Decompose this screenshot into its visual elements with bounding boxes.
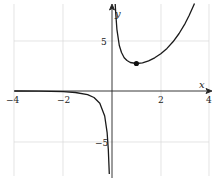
curve-right-branch — [115, 4, 194, 64]
plot-curves — [14, 4, 194, 175]
x-tick-label: −4 — [6, 95, 20, 105]
function-plot: x y −4 −2 2 4 5 −5 — [0, 0, 216, 180]
minimum-point-marker — [134, 61, 139, 66]
x-tick-label: 2 — [158, 95, 164, 105]
x-tick-label: 4 — [206, 95, 212, 105]
x-tick-label: −2 — [57, 95, 70, 105]
y-tick-label: 5 — [101, 37, 107, 47]
x-axis-label: x — [199, 79, 205, 90]
y-tick-label: −5 — [95, 138, 109, 148]
grid-lines — [14, 4, 209, 176]
